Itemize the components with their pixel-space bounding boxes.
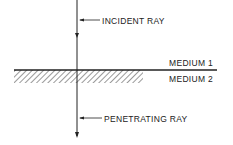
penetrating-ray-label: PENETRATING RAY [104, 114, 188, 124]
incident-arrowhead-icon [75, 33, 79, 38]
penetrating-arrowhead-icon [75, 132, 79, 138]
penetrating-pointer-arrow-icon [79, 117, 84, 120]
incident-pointer-arrow-icon [79, 19, 84, 22]
ray-diagram: INCIDENT RAY MEDIUM 1 MEDIUM 2 PENETRATI… [0, 0, 233, 145]
medium-2-hatch [14, 70, 143, 83]
incident-ray-label: INCIDENT RAY [102, 16, 165, 26]
medium-1-label: MEDIUM 1 [169, 58, 213, 68]
medium-2-label: MEDIUM 2 [169, 74, 213, 84]
